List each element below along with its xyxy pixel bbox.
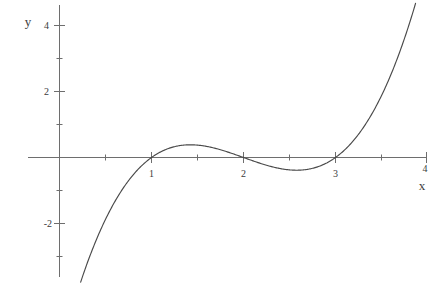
plot-canvas: 1 2 3 4 4 2 -2 y x: [0, 0, 440, 285]
x-axis-label: x: [419, 178, 426, 193]
x-tick-label-4: 4: [423, 163, 428, 174]
x-tick-label-1: 1: [149, 168, 154, 179]
y-tick-label-2: 2: [44, 86, 49, 97]
x-tick-label-2: 2: [241, 168, 246, 179]
y-tick-label-4: 4: [44, 20, 49, 31]
cubic-curve: [81, 3, 416, 282]
plot-figure: 1 2 3 4 4 2 -2 y x: [0, 0, 440, 285]
x-tick-label-3: 3: [333, 168, 338, 179]
y-tick-label-neg2: -2: [44, 218, 52, 229]
y-axis-label: y: [25, 14, 32, 29]
